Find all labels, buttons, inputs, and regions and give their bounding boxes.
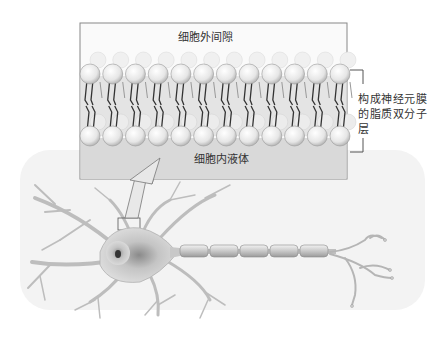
nucleolus [115,250,121,258]
lipid-head-top [125,64,145,84]
lipid-head-top [194,64,214,84]
lipid-head-top [262,64,282,84]
lipid-head-top [239,64,259,84]
lipid-head-bottom [194,126,214,146]
myelin-segment [240,245,268,257]
lipid-head-bottom [307,126,327,146]
extracellular-space-label: 细胞外间隙 [178,28,233,44]
lipid-head-bottom [171,126,191,146]
myelin-segment [300,245,328,257]
myelin-segment [180,245,208,257]
lipid-head-bottom [80,126,100,146]
lipid-head-bottom [262,126,282,146]
myelin-segment [210,245,238,257]
myelinated-axon [180,245,336,257]
lipid-head-top [216,64,236,84]
lipid-head-top [330,64,350,84]
lipid-head-top [285,64,305,84]
bilayer-caption: 构成神经元膜的脂质双分子层 [358,92,430,137]
lipid-head-top [103,64,123,84]
lipid-head-top [307,64,327,84]
lipid-head-top [80,64,100,84]
lipid-head-bottom [216,126,236,146]
intracellular-fluid-label: 细胞内液体 [194,150,249,166]
lipid-head-top [171,64,191,84]
lipid-head-top [148,64,168,84]
lipid-head-bottom [103,126,123,146]
lipid-head-bottom [330,126,350,146]
lipid-head-bottom [125,126,145,146]
lipid-head-bottom [285,126,305,146]
myelin-segment [270,245,298,257]
back-lipid-tail [350,82,352,98]
neuron-diagram [0,0,435,346]
lipid-head-bottom [148,126,168,146]
lipid-head-bottom [239,126,259,146]
